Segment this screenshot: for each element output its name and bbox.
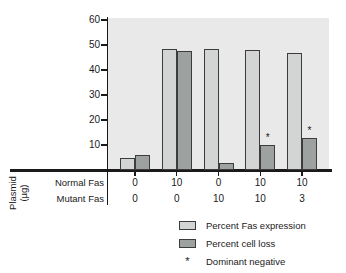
light-bar-swatch-icon <box>179 221 196 230</box>
dominant-negative-asterisk-group5: * <box>305 126 315 136</box>
y-tick-label-20: 20 <box>72 114 100 126</box>
y-tick-label-30: 30 <box>72 89 100 101</box>
y-tick-label-60: 60 <box>72 14 100 26</box>
bar-fas-expression-group3 <box>204 49 219 170</box>
x-axis-title-line1: Plasmid <box>7 162 18 224</box>
bar-fas-expression-group2 <box>162 49 177 170</box>
bar-cell-loss-group4 <box>260 145 275 170</box>
legend: Percent Fas expression Percent cell loss… <box>179 220 306 267</box>
normal-fas-value-group3: 0 <box>206 177 232 189</box>
legend-label-dominant-negative: Dominant negative <box>206 256 285 267</box>
row-label-mutant-fas: Mutant Fas <box>38 193 104 205</box>
row-label-normal-fas: Normal Fas <box>38 177 104 189</box>
x-axis-title-plasmid-ug: Plasmid (µg) <box>7 162 29 224</box>
mutant-fas-value-group4: 10 <box>247 193 273 205</box>
mutant-fas-value-group1: 0 <box>122 193 148 205</box>
y-tick-label-10: 10 <box>72 139 100 151</box>
bar-fas-expression-group5 <box>287 53 302 171</box>
bar-cell-loss-group5 <box>302 138 317 171</box>
legend-item-fas-expression: Percent Fas expression <box>179 220 306 231</box>
x-axis-title-line2: (µg) <box>18 162 29 224</box>
asterisk-icon: * <box>179 256 196 267</box>
normal-fas-value-group1: 0 <box>122 177 148 189</box>
normal-fas-value-group2: 10 <box>164 177 190 189</box>
y-tick-label-50: 50 <box>72 39 100 51</box>
bar-cell-loss-group2 <box>177 51 192 170</box>
mutant-fas-value-group5: 3 <box>289 193 315 205</box>
x-tick-group5 <box>301 172 302 176</box>
x-tick-group1 <box>134 172 135 176</box>
legend-item-cell-loss: Percent cell loss <box>179 238 306 249</box>
bar-fas-expression-group1 <box>120 158 135 171</box>
y-tick-10 <box>101 144 107 145</box>
legend-label-cell-loss: Percent cell loss <box>206 238 275 249</box>
y-tick-50 <box>101 44 107 45</box>
normal-fas-value-group4: 10 <box>247 177 273 189</box>
y-tick-label-40: 40 <box>72 64 100 76</box>
fas-expression-cell-loss-bar-chart: 102030405060 ** 010010100010103 Plasmid … <box>0 0 346 273</box>
dominant-negative-asterisk-group4: * <box>263 133 273 143</box>
y-tick-20 <box>101 119 107 120</box>
y-tick-60 <box>101 19 107 20</box>
y-tick-30 <box>101 94 107 95</box>
legend-label-fas-expression: Percent Fas expression <box>206 220 306 231</box>
legend-item-dominant-negative: * Dominant negative <box>179 256 306 267</box>
normal-fas-value-group5: 10 <box>289 177 315 189</box>
bar-fas-expression-group4 <box>245 50 260 170</box>
y-axis-line <box>107 17 109 205</box>
mutant-fas-value-group2: 0 <box>164 193 190 205</box>
y-tick-40 <box>101 69 107 70</box>
bar-cell-loss-group3 <box>219 163 234 171</box>
x-tick-group4 <box>260 172 261 176</box>
x-tick-group3 <box>218 172 219 176</box>
dark-bar-swatch-icon <box>179 239 196 248</box>
x-tick-group2 <box>176 172 177 176</box>
mutant-fas-value-group3: 10 <box>206 193 232 205</box>
bar-cell-loss-group1 <box>135 155 150 170</box>
